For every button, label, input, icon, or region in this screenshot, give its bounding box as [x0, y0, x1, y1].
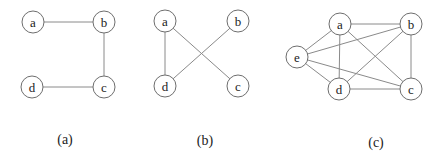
graph-a-nodes: abcd: [21, 11, 115, 98]
node-label: a: [162, 14, 168, 29]
node-c: c: [93, 76, 115, 98]
node-d: d: [154, 75, 176, 97]
node-label: d: [29, 80, 36, 95]
node-c: c: [227, 75, 249, 97]
edges-layer: [32, 21, 411, 89]
graph-c-edges: [297, 24, 411, 89]
node-label: b: [101, 15, 108, 30]
graph-c-nodes: abcde: [286, 13, 422, 100]
node-label: d: [162, 79, 169, 94]
node-b: b: [93, 11, 115, 33]
node-c: c: [400, 78, 422, 100]
node-b: b: [400, 13, 422, 35]
edge-b-e: [297, 24, 411, 57]
node-label: b: [235, 14, 242, 29]
node-a: a: [154, 10, 176, 32]
node-label: c: [235, 79, 241, 94]
caption-b: (b): [197, 133, 214, 149]
node-label: a: [30, 15, 36, 30]
caption-c: (c): [368, 135, 384, 151]
node-a: a: [22, 11, 44, 33]
graph-diagram-canvas: abcdabcdabcde (a)(b)(c): [0, 0, 445, 164]
node-label: a: [337, 17, 343, 32]
captions-layer: (a)(b)(c): [57, 132, 384, 151]
graph-b-edges: [165, 21, 238, 86]
node-label: c: [101, 80, 107, 95]
node-label: e: [294, 50, 300, 65]
node-d: d: [21, 76, 43, 98]
node-d: d: [328, 78, 350, 100]
node-label: c: [408, 82, 414, 97]
graph-a-edges: [32, 22, 104, 87]
node-b: b: [227, 10, 249, 32]
node-e: e: [286, 46, 308, 68]
caption-a: (a): [57, 132, 73, 148]
node-a: a: [329, 13, 351, 35]
node-label: d: [336, 82, 343, 97]
node-label: b: [408, 17, 415, 32]
